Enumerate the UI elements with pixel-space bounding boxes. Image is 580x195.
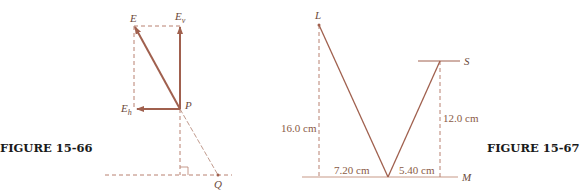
- ray-mirror-to-s: [388, 61, 440, 177]
- point-q: [217, 174, 220, 177]
- label-s: S: [464, 55, 470, 67]
- right-angle-marker: [180, 167, 188, 175]
- label-eh: Eh: [120, 102, 132, 117]
- figure-caption-15-67: FIGURE 15-67: [487, 141, 580, 155]
- label-height-s: 12.0 cm: [443, 112, 479, 124]
- label-l: L: [314, 9, 321, 21]
- figure-15-67: L S M 16.0 cm 12.0 cm 7.20 cm 5.40 cm: [281, 9, 479, 183]
- label-q: Q: [214, 178, 222, 190]
- label-e: E: [129, 12, 137, 24]
- label-height-l: 16.0 cm: [281, 122, 317, 134]
- ray-l-to-mirror: [319, 25, 388, 177]
- label-dist-right: 5.40 cm: [399, 164, 435, 176]
- label-m: M: [461, 171, 472, 183]
- figure-caption-15-66: FIGURE 15-66: [0, 141, 93, 155]
- line-p-to-q: [180, 109, 218, 175]
- vector-e: [135, 27, 180, 109]
- point-l: [318, 24, 321, 27]
- label-ev: Ev: [174, 10, 186, 25]
- label-p: P: [184, 99, 192, 111]
- figure-15-66: E Ev Eh P Q: [105, 10, 232, 190]
- label-dist-left: 7.20 cm: [334, 164, 370, 176]
